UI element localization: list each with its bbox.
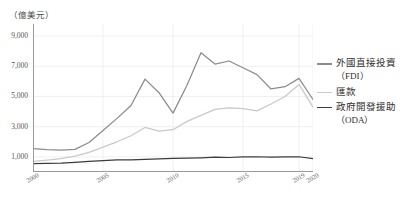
y-tick-label: 7,000 <box>0 61 28 70</box>
legend-line-swatch-icon <box>317 92 332 94</box>
x-tick-label: 2000 <box>25 171 40 184</box>
x-tick-label: 2019 <box>291 171 306 184</box>
y-axis-unit-label: （億美元） <box>9 8 54 20</box>
legend-label: 外國直接投資 <box>336 57 396 69</box>
legend-item-2[interactable]: 匯款 <box>317 86 417 98</box>
legend-row: 匯款 <box>317 86 417 98</box>
chart-legend: 外國直接投資（FDI）匯款政府開發援助（ODA） <box>317 57 417 129</box>
plot-area <box>33 24 313 172</box>
legend-line-swatch-icon <box>317 63 332 65</box>
legend-sublabel: （FDI） <box>317 71 417 83</box>
legend-row: 政府開發援助 <box>317 101 417 113</box>
legend-sublabel: （ODA） <box>317 115 417 127</box>
y-tick-label: 3,000 <box>0 122 28 131</box>
x-tick-label: 2010 <box>165 171 180 184</box>
y-tick-label: 1,000 <box>0 152 28 161</box>
y-tick-label: 5,000 <box>0 91 28 100</box>
y-tick-label: 9,000 <box>0 31 28 40</box>
x-tick-label: 2005 <box>95 171 110 184</box>
x-tick-label: 2015 <box>235 171 250 184</box>
legend-item-3[interactable]: 政府開發援助（ODA） <box>317 101 417 127</box>
legend-line-swatch-icon <box>317 107 332 109</box>
legend-label: 政府開發援助 <box>336 101 396 113</box>
legend-label: 匯款 <box>336 86 356 98</box>
chart-container: （億美元） 9,0007,0005,0003,0001,000 20002005… <box>0 0 418 198</box>
legend-row: 外國直接投資 <box>317 57 417 69</box>
legend-item-1[interactable]: 外國直接投資（FDI） <box>317 57 417 83</box>
chart-svg <box>33 24 313 172</box>
x-tick-label: 2020 <box>305 171 320 184</box>
